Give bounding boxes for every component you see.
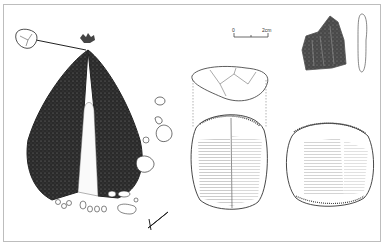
flake-side-profile (358, 14, 367, 72)
scale-bar-end-label: 2cm (262, 27, 271, 33)
scale-bar-start-label: 0 (232, 27, 235, 33)
core-front-view (191, 115, 267, 210)
flake-front-view (302, 16, 346, 70)
north-arrow (148, 212, 168, 230)
figure-drawing (0, 0, 385, 246)
scale-bar (234, 33, 268, 37)
core-back-view (286, 123, 373, 206)
burial-feature-plan (16, 29, 172, 214)
